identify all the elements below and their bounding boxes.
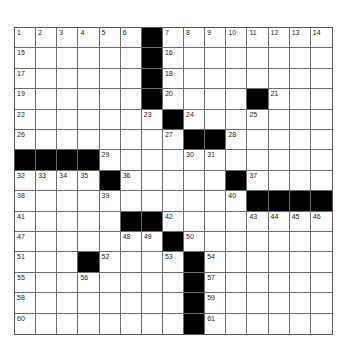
- grid-cell[interactable]: 43: [247, 212, 268, 232]
- grid-cell[interactable]: [121, 110, 142, 130]
- grid-cell[interactable]: [100, 130, 121, 150]
- grid-cell[interactable]: [290, 252, 311, 272]
- grid-cell[interactable]: 21: [269, 89, 290, 109]
- grid-cell[interactable]: [78, 69, 99, 89]
- grid-cell[interactable]: [247, 232, 268, 252]
- grid-cell[interactable]: [57, 273, 78, 293]
- grid-cell[interactable]: 3: [57, 28, 78, 48]
- grid-cell[interactable]: 48: [121, 232, 142, 252]
- grid-cell[interactable]: [57, 212, 78, 232]
- grid-cell[interactable]: [142, 293, 163, 313]
- grid-cell[interactable]: 52: [100, 252, 121, 272]
- grid-cell[interactable]: [36, 252, 57, 272]
- grid-cell[interactable]: [269, 150, 290, 170]
- grid-cell[interactable]: [36, 293, 57, 313]
- grid-cell[interactable]: [247, 252, 268, 272]
- grid-cell[interactable]: [226, 69, 247, 89]
- grid-cell[interactable]: 33: [36, 171, 57, 191]
- grid-cell[interactable]: [311, 171, 332, 191]
- grid-cell[interactable]: [163, 191, 184, 211]
- grid-cell[interactable]: [121, 191, 142, 211]
- grid-cell[interactable]: [269, 252, 290, 272]
- grid-cell[interactable]: 25: [247, 110, 268, 130]
- grid-cell[interactable]: [290, 130, 311, 150]
- grid-cell[interactable]: [100, 273, 121, 293]
- grid-cell[interactable]: [290, 232, 311, 252]
- grid-cell[interactable]: [163, 171, 184, 191]
- grid-cell[interactable]: [226, 232, 247, 252]
- grid-cell[interactable]: [57, 191, 78, 211]
- grid-cell[interactable]: 40: [226, 191, 247, 211]
- grid-cell[interactable]: 27: [163, 130, 184, 150]
- grid-cell[interactable]: [226, 110, 247, 130]
- grid-cell[interactable]: [205, 110, 226, 130]
- grid-cell[interactable]: [142, 314, 163, 334]
- grid-cell[interactable]: 10: [226, 28, 247, 48]
- grid-cell[interactable]: 45: [290, 212, 311, 232]
- grid-cell[interactable]: [311, 293, 332, 313]
- grid-cell[interactable]: [247, 293, 268, 313]
- grid-cell[interactable]: 2: [36, 28, 57, 48]
- grid-cell[interactable]: [290, 69, 311, 89]
- grid-cell[interactable]: [184, 48, 205, 68]
- grid-cell[interactable]: 31: [205, 150, 226, 170]
- grid-cell[interactable]: [311, 89, 332, 109]
- grid-cell[interactable]: 47: [15, 232, 36, 252]
- grid-cell[interactable]: [142, 171, 163, 191]
- grid-cell[interactable]: [163, 273, 184, 293]
- grid-cell[interactable]: [142, 252, 163, 272]
- grid-cell[interactable]: 20: [163, 89, 184, 109]
- grid-cell[interactable]: [78, 48, 99, 68]
- grid-cell[interactable]: [36, 89, 57, 109]
- grid-cell[interactable]: [290, 314, 311, 334]
- grid-cell[interactable]: [100, 293, 121, 313]
- grid-cell[interactable]: [247, 130, 268, 150]
- grid-cell[interactable]: [78, 89, 99, 109]
- grid-cell[interactable]: [226, 273, 247, 293]
- grid-cell[interactable]: [121, 48, 142, 68]
- grid-cell[interactable]: 44: [269, 212, 290, 232]
- grid-cell[interactable]: [311, 130, 332, 150]
- grid-cell[interactable]: 6: [121, 28, 142, 48]
- grid-cell[interactable]: [100, 232, 121, 252]
- grid-cell[interactable]: [121, 130, 142, 150]
- grid-cell[interactable]: 16: [163, 48, 184, 68]
- grid-cell[interactable]: [57, 110, 78, 130]
- grid-cell[interactable]: 24: [184, 110, 205, 130]
- grid-cell[interactable]: 9: [205, 28, 226, 48]
- grid-cell[interactable]: [205, 48, 226, 68]
- grid-cell[interactable]: [226, 252, 247, 272]
- grid-cell[interactable]: 11: [247, 28, 268, 48]
- grid-cell[interactable]: 49: [142, 232, 163, 252]
- grid-cell[interactable]: [36, 69, 57, 89]
- grid-cell[interactable]: [290, 110, 311, 130]
- grid-cell[interactable]: [57, 232, 78, 252]
- grid-cell[interactable]: [57, 314, 78, 334]
- grid-cell[interactable]: [290, 89, 311, 109]
- grid-cell[interactable]: 60: [15, 314, 36, 334]
- grid-cell[interactable]: [78, 110, 99, 130]
- grid-cell[interactable]: 58: [15, 293, 36, 313]
- grid-cell[interactable]: [269, 273, 290, 293]
- grid-cell[interactable]: [184, 89, 205, 109]
- grid-cell[interactable]: [142, 191, 163, 211]
- grid-cell[interactable]: 22: [15, 110, 36, 130]
- grid-cell[interactable]: [311, 150, 332, 170]
- grid-cell[interactable]: 56: [78, 273, 99, 293]
- grid-cell[interactable]: [100, 69, 121, 89]
- grid-cell[interactable]: [269, 110, 290, 130]
- grid-cell[interactable]: [311, 232, 332, 252]
- grid-cell[interactable]: [269, 232, 290, 252]
- grid-cell[interactable]: [184, 191, 205, 211]
- grid-cell[interactable]: 26: [15, 130, 36, 150]
- grid-cell[interactable]: [226, 314, 247, 334]
- grid-cell[interactable]: 42: [163, 212, 184, 232]
- grid-cell[interactable]: 17: [15, 69, 36, 89]
- grid-cell[interactable]: [121, 150, 142, 170]
- grid-cell[interactable]: [205, 69, 226, 89]
- grid-cell[interactable]: [36, 273, 57, 293]
- grid-cell[interactable]: 55: [15, 273, 36, 293]
- grid-cell[interactable]: [311, 110, 332, 130]
- grid-cell[interactable]: 36: [121, 171, 142, 191]
- grid-cell[interactable]: 35: [78, 171, 99, 191]
